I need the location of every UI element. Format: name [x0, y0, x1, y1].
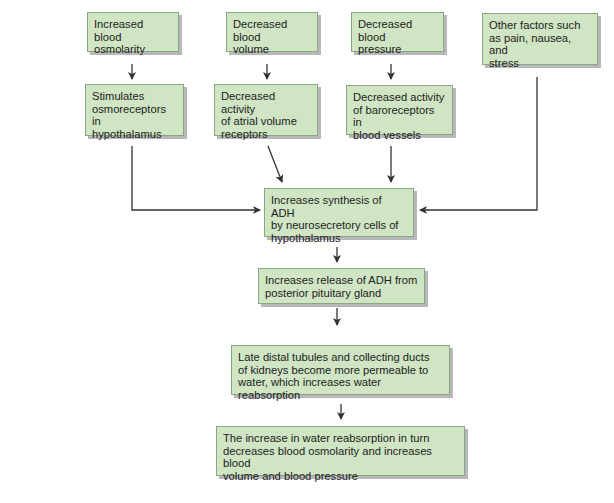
- arrow-atrial-to-synthesis: [268, 146, 282, 182]
- box-stimulates-osmoreceptors: Stimulates osmoreceptors in hypothalamus: [85, 84, 184, 136]
- box-decreased-blood-volume: Decreased blood volume: [226, 12, 318, 52]
- box-increases-adh-synthesis: Increases synthesis of ADH by neurosecre…: [264, 188, 414, 237]
- box-kidney-permeability: Late distal tubules and collecting ducts…: [231, 345, 450, 395]
- box-increases-adh-release: Increases release of ADH from posterior …: [258, 268, 425, 304]
- arrow-osmoreceptors-to-synthesis: [132, 146, 260, 210]
- box-atrial-volume-receptors: Decreased activity of atrial volume rece…: [214, 84, 318, 136]
- box-outcome: The increase in water reabsorption in tu…: [216, 426, 465, 476]
- box-increased-blood-osmolarity: Increased blood osmolarity: [87, 12, 179, 52]
- box-decreased-blood-pressure: Decreased blood pressure: [351, 12, 444, 52]
- box-baroreceptors: Decreased activity of baroreceptors in b…: [346, 85, 453, 135]
- box-other-factors: Other factors such as pain, nausea, and …: [482, 13, 598, 65]
